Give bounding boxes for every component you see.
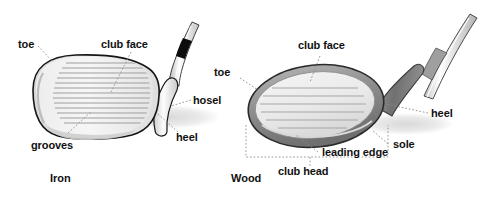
label-iron-toe: toe: [18, 38, 34, 50]
golf-club-anatomy-diagram: toe club face hosel heel grooves Iron cl…: [0, 0, 486, 204]
label-wood-club-head: club head: [278, 165, 328, 177]
wood-illustration: [240, 14, 477, 166]
leader-wood-toe: [240, 78, 258, 90]
label-iron-heel: heel: [176, 131, 198, 143]
label-wood-toe: toe: [214, 66, 230, 78]
label-wood-leading-edge: leading edge: [322, 146, 388, 158]
label-iron-grooves: grooves: [31, 139, 73, 151]
label-wood-sole: sole: [393, 138, 415, 150]
label-wood-club-face: club face: [298, 39, 345, 51]
leader-iron-toe: [38, 46, 52, 61]
caption-iron: Iron: [50, 172, 71, 184]
wood-neck: [378, 64, 424, 116]
caption-wood: Wood: [231, 172, 261, 184]
label-iron-club-face: club face: [101, 38, 148, 50]
label-wood-heel: heel: [431, 107, 453, 119]
label-iron-hosel: hosel: [193, 94, 221, 106]
